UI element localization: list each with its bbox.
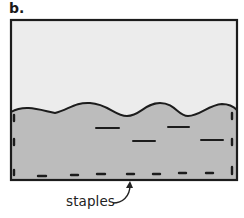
staples-callout-label: staples (66, 193, 115, 209)
arrowhead-icon (126, 181, 133, 188)
stapled-paper-diagram (0, 0, 244, 218)
